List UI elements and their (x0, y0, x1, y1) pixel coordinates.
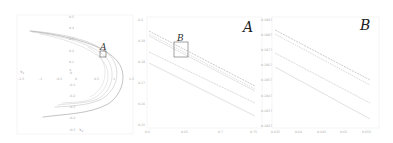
y-tick: 0.18 (138, 60, 145, 64)
panel-b-frame (272, 17, 379, 128)
main-phase-plot: 0.5 0.4 0.3 0.2 0.1 0 -0.1 -0.2 -0.3 -0.… (0, 0, 135, 143)
panel-b-y-ticks: 0.1897 0.1887 0.1877 0.1867 0.1857 0.184… (261, 18, 272, 128)
zoom-box-b-label: B (176, 33, 184, 43)
panel-a-x-ticks: 0.6 0.65 0.7 0.75 (145, 130, 257, 134)
y-tick: 0.19 (138, 39, 145, 43)
x-tick: 0.645 (317, 130, 326, 134)
orbit-outer (30, 31, 123, 117)
zoom-panel-a: 0.2 0.19 0.18 0.17 0.16 0.15 0.6 0.65 0.… (135, 0, 263, 143)
panel-b-x-ticks: 0.635 0.64 0.645 0.65 0.655 (271, 130, 371, 134)
panel-a-svg: 0.2 0.19 0.18 0.17 0.16 0.15 0.6 0.65 0.… (135, 0, 263, 143)
zoom-box-a-label: A (99, 42, 107, 52)
line-3 (149, 52, 255, 103)
y-tick: 0.1867 (261, 63, 272, 67)
panel-a-lines (149, 31, 255, 116)
y-tick: 0.5 (69, 15, 74, 19)
line-1 (275, 30, 370, 80)
y-tick: 0.1897 (261, 18, 272, 22)
x-tick: 0.65 (340, 130, 347, 134)
zoom-panel-b: 0.1897 0.1887 0.1877 0.1867 0.1857 0.184… (260, 0, 393, 143)
line-3 (275, 53, 370, 103)
panel-b-svg: 0.1897 0.1887 0.1877 0.1867 0.1857 0.184… (260, 0, 393, 143)
y-tick: 0.1887 (261, 33, 272, 37)
x-tick: 1.5 (129, 77, 134, 81)
y-tick: 0.1877 (261, 48, 272, 52)
orbit-curves (30, 31, 123, 117)
main-y-ticks: 0.5 0.4 0.3 0.2 0.1 0 -0.1 -0.2 -0.3 -0.… (69, 15, 75, 132)
line-2 (149, 34, 255, 89)
origin-marker: × (69, 68, 72, 72)
y-tick: 0.1857 (261, 78, 272, 82)
line-2 (275, 34, 370, 85)
zoom-box-b (174, 42, 188, 57)
x-tick: 0.64 (295, 130, 302, 134)
y-tick: 0.4 (69, 26, 74, 30)
y-tick: -0.4 (69, 116, 75, 120)
x1-axis-label: x1 (20, 69, 25, 75)
y-tick: 0.1847 (261, 94, 272, 98)
x-tick: 0 (75, 77, 77, 81)
y-tick: 0.1827 (261, 124, 272, 128)
x-tick: 0.655 (362, 130, 371, 134)
orbit-4 (40, 34, 108, 103)
x-tick: -0.5 (56, 77, 62, 81)
x-tick: -1.5 (18, 77, 24, 81)
y-tick: 0.2 (69, 49, 74, 53)
y-tick: 0.15 (138, 123, 145, 127)
y-tick: 0.16 (138, 102, 145, 106)
x-tick: 0.635 (271, 130, 280, 134)
line-1 (149, 31, 255, 86)
main-plot-svg: 0.5 0.4 0.3 0.2 0.1 0 -0.1 -0.2 -0.3 -0.… (0, 0, 135, 143)
y-tick: 0.17 (138, 81, 145, 85)
x-tick: 0.75 (250, 130, 257, 134)
y-tick: -0.1 (69, 83, 75, 87)
y-tick: -0.5 (69, 128, 75, 132)
panel-a-y-ticks: 0.2 0.19 0.18 0.17 0.16 0.15 (138, 18, 145, 127)
x-tick: 0.6 (145, 130, 150, 134)
panel-b-title: B (359, 17, 370, 33)
y-tick: -0.2 (69, 94, 75, 98)
x-tick: 0.7 (218, 130, 223, 134)
y-tick: 0.2 (138, 18, 143, 22)
y-tick: 0.1 (69, 60, 74, 64)
line-4 (275, 67, 370, 119)
y-tick: 0.1837 (261, 109, 272, 113)
line-2b (149, 36, 255, 91)
panel-b-lines (275, 30, 370, 119)
panel-a-title: A (241, 19, 253, 35)
x-tick: 0.65 (181, 130, 188, 134)
line-4 (149, 63, 255, 116)
x-tick: 1 (113, 77, 115, 81)
x-tick: -1 (39, 77, 42, 81)
x-tick: 0.5 (94, 77, 99, 81)
x2-axis-label: x2 (79, 127, 84, 133)
